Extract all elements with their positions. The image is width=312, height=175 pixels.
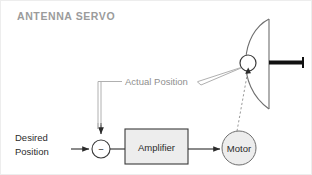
feedback-label: Actual Position [125, 76, 188, 87]
motor-to-antenna-linkage [237, 73, 248, 131]
diagram-canvas: ANTENNA SERVO [0, 0, 312, 175]
feedback-seg-right [198, 68, 241, 82]
feedback-diagonal [201, 68, 241, 85]
input-label-line2: Position [15, 146, 49, 157]
input-label-line1: Desired [15, 132, 48, 143]
antenna-dish-assembly [240, 19, 304, 109]
feedback-right-stub [197, 82, 201, 86]
summing-junction-sign: − [98, 144, 104, 155]
feed-horn-tip [302, 57, 304, 68]
amplifier-label: Amplifier [138, 142, 175, 153]
page-title: ANTENNA SERVO [17, 10, 115, 22]
feed-arm [269, 61, 303, 65]
antenna-servo-diagram: ANTENNA SERVO [1, 1, 312, 175]
motor-label: Motor [227, 143, 251, 154]
